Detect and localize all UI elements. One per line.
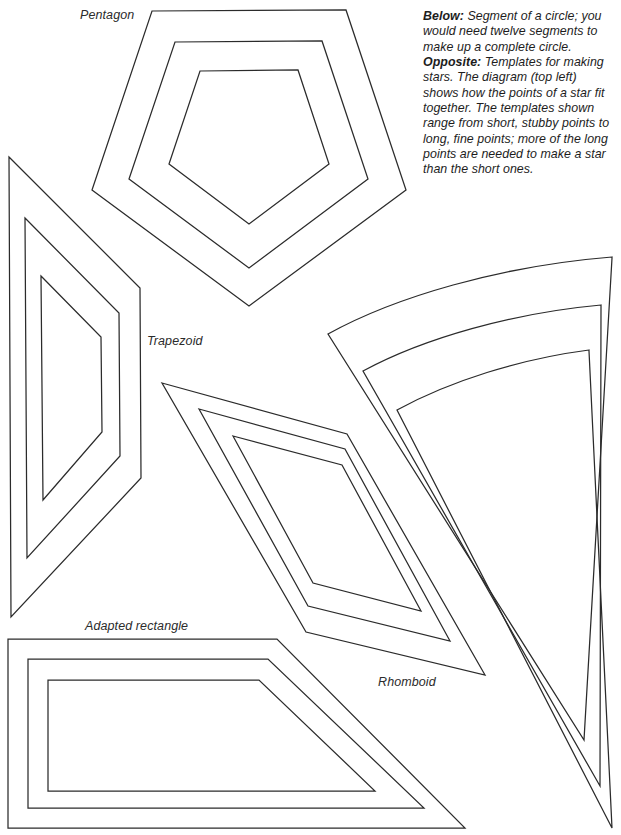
- rhomboid-outline-inner: [233, 436, 421, 611]
- pentagon-outline-inner: [169, 70, 329, 224]
- pentagon-outline-outer: [92, 10, 406, 306]
- circle-segment-arc-middle: [363, 305, 601, 786]
- adapted-rectangle-shape: [8, 639, 465, 828]
- caption-paragraph-below: Below: Segment of a circle; you would ne…: [423, 9, 615, 55]
- label-rhomboid: Rhomboid: [378, 675, 436, 691]
- trapezoid-outline-outer: [9, 157, 141, 617]
- rhomboid-outline-outer: [162, 383, 485, 675]
- trapezoid-outline-middle: [25, 218, 120, 558]
- label-adapted-rectangle: Adapted rectangle: [85, 619, 188, 635]
- pentagon-outline-middle: [129, 41, 368, 268]
- pentagon-shape: [92, 10, 406, 306]
- circle-segment-shape: [328, 257, 612, 828]
- rhomboid-shape: [162, 383, 485, 675]
- label-pentagon: Pentagon: [80, 8, 134, 24]
- caption-opposite-lead: Opposite:: [423, 55, 481, 69]
- caption-opposite-text: Templates for making stars. The diagram …: [423, 55, 609, 176]
- adapted-rectangle-outline-outer: [8, 639, 465, 828]
- adapted-rectangle-outline-middle: [28, 659, 424, 808]
- label-trapezoid: Trapezoid: [147, 334, 203, 350]
- caption-paragraph-opposite: Opposite: Templates for making stars. Th…: [423, 55, 615, 178]
- circle-segment-arc-inner: [397, 350, 612, 828]
- figure-caption: Below: Segment of a circle; you would ne…: [423, 9, 615, 177]
- adapted-rectangle-outline-inner: [48, 680, 375, 791]
- caption-below-lead: Below:: [423, 9, 464, 23]
- trapezoid-outline-inner: [41, 276, 102, 500]
- trapezoid-shape: [9, 157, 141, 617]
- diagram-page: Pentagon Trapezoid Adapted rectangle Rho…: [0, 0, 621, 835]
